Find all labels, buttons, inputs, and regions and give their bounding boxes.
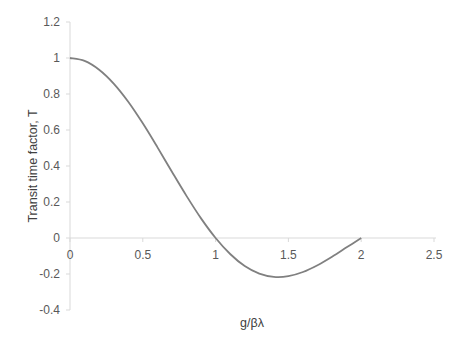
y-tick-label: 0.6 [43, 123, 60, 137]
y-tick-label: -0.4 [39, 303, 60, 317]
axes [66, 22, 436, 310]
x-tick-label: 2 [358, 248, 365, 262]
tick-labels: 1.210.80.60.40.20-0.2-0.400.511.522.5 [39, 15, 442, 317]
x-tick-label: 1.5 [280, 248, 297, 262]
series-line [70, 58, 361, 277]
y-tick-label: 1 [53, 51, 60, 65]
x-tick-label: 0 [67, 248, 74, 262]
x-tick-label: 1 [212, 248, 219, 262]
y-tick-label: 1.2 [43, 15, 60, 29]
chart: 1.210.80.60.40.20-0.2-0.400.511.522.5 g/… [0, 0, 466, 345]
y-tick-label: 0.8 [43, 87, 60, 101]
x-axis-title: g/βλ [240, 316, 265, 330]
y-axis-title: Transit time factor, T [26, 109, 40, 223]
x-tick-label: 0.5 [134, 248, 151, 262]
y-tick-label: -0.2 [39, 267, 60, 281]
y-tick-label: 0 [53, 231, 60, 245]
y-tick-label: 0.2 [43, 195, 60, 209]
y-tick-label: 0.4 [43, 159, 60, 173]
x-tick-label: 2.5 [426, 248, 443, 262]
